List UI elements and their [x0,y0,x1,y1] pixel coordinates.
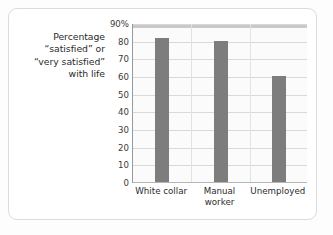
x-axis-tick-label-line: worker [204,197,236,208]
plot-area [132,24,307,183]
bar [155,38,169,183]
y-axis-caption: Percentage “satisfied” or “very satisfie… [13,31,105,81]
y-axis-tick-label: 0 [96,178,129,188]
x-axis-tick-labels: White collarManualworkerUnemployed [132,186,307,216]
bar-chart: 0102030405060708090% White collarManualw… [132,24,307,191]
y-axis-tick-label: 50 [96,90,129,100]
y-axis-caption-line-4: with life [13,68,105,80]
bar [214,41,228,183]
y-axis-tick-label: 80 [96,37,129,47]
y-axis-tick-label: 20 [96,143,129,153]
x-axis-tick-label: White collar [135,186,187,197]
x-axis-tick-label-line: Manual [204,186,236,197]
y-axis-tick-label: 10 [96,160,129,170]
bar [272,76,286,183]
y-axis-tick-label: 30 [96,125,129,135]
x-axis-tick-label-line: White collar [135,186,187,197]
y-axis-caption-line-1: Percentage [13,31,105,43]
y-axis-caption-line-2: “satisfied” or [13,43,105,55]
figure-card: Percentage “satisfied” or “very satisfie… [8,8,317,220]
x-axis-tick-label: Manualworker [204,186,236,207]
y-axis-tick-labels: 0102030405060708090% [96,24,129,183]
y-axis-tick-label: 40 [96,107,129,117]
x-axis-tick-label-line: Unemployed [250,186,305,197]
y-axis-tick-label: 90% [96,19,129,29]
x-axis-tick-label: Unemployed [250,186,305,197]
y-axis-caption-line-3: “very satisfied” [13,56,105,68]
bars-layer [133,24,307,183]
y-axis-tick-label: 60 [96,72,129,82]
y-axis-tick-label: 70 [96,54,129,64]
